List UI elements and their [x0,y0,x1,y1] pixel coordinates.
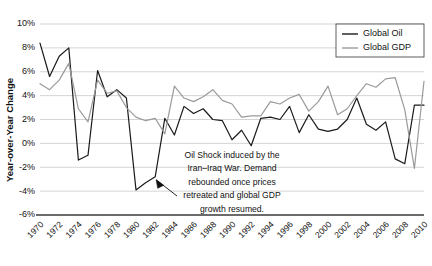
x-tick-label: 1982 [140,219,161,240]
legend-label: Global GDP [363,42,411,52]
y-tick-label: -4% [19,186,35,196]
y-tick-label: -2% [19,162,35,172]
x-tick-label: 1986 [179,219,200,240]
x-tick-label: 2000 [313,219,334,240]
chart-legend: Global OilGlobal GDP [336,24,424,57]
annotation-group: Oil Shock induced by theIran–Iraq War. D… [156,150,281,214]
x-tick-label: 1996 [275,219,296,240]
annotation-line: retreated and global GDP [183,190,281,200]
y-axis-tick-labels: 10%8%6%4%2%0%-2%-4%-6% [17,18,35,219]
y-tick-label: 4% [22,90,35,100]
x-tick-label: 2004 [351,219,372,240]
x-tick-label: 1972 [44,219,65,240]
x-tick-label: 2006 [371,219,392,240]
x-tick-label: 1984 [159,219,180,240]
y-tick-label: 0% [22,138,35,148]
y-tick-label: 10% [17,18,35,28]
line-chart: 10%8%6%4%2%0%-2%-4%-6% 19701972197419761… [0,0,432,266]
annotation-line: Oil Shock induced by the [184,150,279,160]
x-tick-label: 1976 [83,219,104,240]
annotation-line: growth resumed. [200,204,264,214]
x-tick-label: 1978 [102,219,123,240]
annotation-arrowhead [156,180,164,189]
x-tick-label: 2002 [332,219,353,240]
y-tick-label: -6% [19,209,35,219]
y-tick-label: 2% [22,114,35,124]
annotation-line: rebounded once prices [188,177,275,187]
x-tick-label: 1980 [121,219,142,240]
y-axis-title: Year-over-Year Change [4,78,15,182]
x-tick-label: 1974 [63,219,84,240]
x-tick-label: 1992 [236,219,257,240]
x-tick-label: 2010 [409,219,430,240]
x-tick-label: 1970 [25,219,46,240]
annotation-line: Iran–Iraq War. Demand [187,163,276,173]
x-tick-label: 1990 [217,219,238,240]
x-tick-label: 1988 [198,219,219,240]
x-tick-label: 1994 [255,219,276,240]
x-tick-label: 2008 [390,219,411,240]
y-tick-label: 8% [22,42,35,52]
y-tick-label: 6% [22,66,35,76]
x-axis-tick-labels: 1970197219741976197819801982198419861988… [25,219,430,240]
chart-container: 10%8%6%4%2%0%-2%-4%-6% 19701972197419761… [0,0,432,266]
legend-label: Global Oil [363,28,403,38]
x-tick-label: 1998 [294,219,315,240]
